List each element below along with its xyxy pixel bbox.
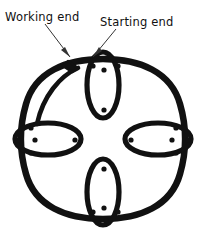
crossing-dot	[185, 137, 190, 142]
label-starting-end: Starting end	[100, 15, 174, 29]
crossing-dot	[28, 125, 33, 130]
crossing-dot	[72, 137, 77, 142]
knot-group	[15, 52, 191, 225]
crossing-dot	[128, 137, 133, 142]
crossing-dot	[90, 63, 95, 68]
crossing-dot	[169, 137, 174, 142]
knot-diagram-canvas: Working end Starting end	[0, 0, 205, 240]
crossing-dot	[15, 137, 20, 142]
working-end-leader-arrowhead	[61, 47, 70, 57]
crossing-dot	[173, 150, 178, 155]
knot-diagram-figure: Working end Starting end	[0, 0, 205, 240]
crossing-dot	[101, 107, 106, 112]
outer-ring-path	[21, 59, 186, 219]
crossing-dot	[103, 218, 108, 223]
crossing-dot	[101, 67, 106, 72]
crossing-dot	[173, 125, 178, 130]
crossing-dot	[115, 209, 120, 214]
crossing-dot	[28, 150, 33, 155]
crossing-dot	[103, 55, 108, 60]
right-loop-path	[125, 123, 191, 155]
label-working-end: Working end	[5, 10, 79, 24]
crossing-dot	[32, 137, 37, 142]
crossing-dot	[90, 209, 95, 214]
crossing-dot	[101, 166, 106, 171]
left-loop-path	[15, 123, 81, 155]
crossing-dot	[115, 63, 120, 68]
crossing-dot	[101, 205, 106, 210]
